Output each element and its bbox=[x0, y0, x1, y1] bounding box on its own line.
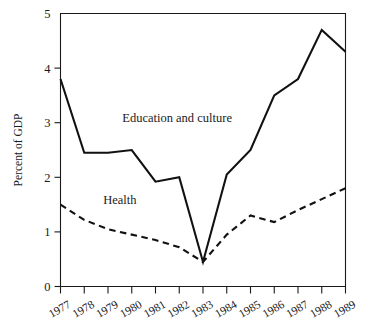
x-tick-label: 1989 bbox=[332, 298, 358, 320]
series-group bbox=[61, 30, 346, 262]
x-axis-ticks bbox=[61, 287, 346, 294]
y-tick-label: 0 bbox=[44, 280, 50, 294]
y-axis-title: Percent of GDP bbox=[12, 114, 24, 187]
x-tick-label: 1983 bbox=[189, 298, 215, 320]
x-tick-label: 1982 bbox=[165, 298, 191, 320]
x-tick-label: 1984 bbox=[213, 298, 239, 320]
series-annotation-label: Education and culture bbox=[122, 111, 232, 125]
x-axis-tick-labels: 1977197819791980198119821983198419851986… bbox=[47, 298, 358, 320]
y-axis-ticks bbox=[55, 68, 61, 286]
plot-frame bbox=[61, 14, 346, 287]
x-tick-label: 1986 bbox=[260, 298, 286, 320]
x-tick-label: 1979 bbox=[94, 298, 120, 320]
x-tick-label: 1985 bbox=[237, 298, 263, 320]
line-chart: 012345 Percent of GDP 197719781979198019… bbox=[0, 0, 374, 335]
y-axis-tick-labels: 012345 bbox=[44, 7, 51, 294]
y-tick-label: 2 bbox=[44, 171, 50, 185]
y-tick-label: 5 bbox=[44, 7, 50, 21]
series-annotation-label: Health bbox=[103, 193, 137, 207]
x-tick-label: 1980 bbox=[118, 298, 144, 320]
x-tick-label: 1987 bbox=[284, 298, 310, 320]
x-tick-label: 1981 bbox=[142, 298, 168, 320]
x-tick-label: 1977 bbox=[47, 298, 73, 320]
y-tick-label: 3 bbox=[44, 116, 50, 130]
chart-container: 012345 Percent of GDP 197719781979198019… bbox=[0, 0, 374, 335]
y-tick-label: 1 bbox=[44, 225, 50, 239]
y-tick-label: 4 bbox=[44, 62, 51, 76]
series-annotations: Education and cultureHealth bbox=[103, 111, 232, 207]
x-tick-label: 1988 bbox=[308, 298, 334, 320]
x-tick-label: 1978 bbox=[70, 298, 96, 320]
